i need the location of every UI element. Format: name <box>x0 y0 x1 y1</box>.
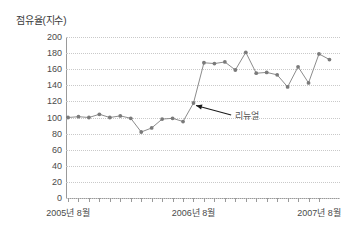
annotation-arrow-icon <box>66 37 340 198</box>
annotation-layer: 리뉴얼 <box>66 37 340 198</box>
y-axis-tick-label: 20 <box>16 177 62 187</box>
y-axis-tick-label: 100 <box>16 113 62 123</box>
x-axis-tick <box>120 198 121 202</box>
x-axis-tick-label: 2005년 8월 <box>46 206 90 219</box>
x-axis-tick <box>319 198 320 202</box>
x-axis-tick <box>173 198 174 202</box>
x-axis-tick <box>152 198 153 202</box>
x-axis-tick <box>277 198 278 202</box>
x-axis-tick <box>162 198 163 202</box>
x-axis-tick <box>78 198 79 202</box>
x-axis-tick <box>246 198 247 202</box>
x-axis-tick <box>288 198 289 202</box>
x-axis-tick <box>235 198 236 202</box>
y-axis-tick-label: 120 <box>16 96 62 106</box>
annotation-label: 리뉴얼 <box>235 109 258 122</box>
x-axis-tick <box>131 198 132 202</box>
y-axis-tick-label: 160 <box>16 64 62 74</box>
x-axis-tick <box>193 198 194 202</box>
x-axis-tick-label: 2006년 8월 <box>172 206 216 219</box>
x-axis-tick <box>204 198 205 202</box>
x-axis-tick <box>68 198 69 202</box>
x-axis-tick <box>214 198 215 202</box>
x-axis-tick <box>110 198 111 202</box>
x-axis-tick <box>225 198 226 202</box>
x-axis-tick <box>256 198 257 202</box>
chart-container: 점유율(지수) 200180160140120100806040200 2005… <box>0 0 354 234</box>
x-axis-tick <box>89 198 90 202</box>
y-axis-tick-label: 40 <box>16 161 62 171</box>
chart-title: 점유율(지수) <box>16 12 66 27</box>
y-axis-tick-label: 140 <box>16 80 62 90</box>
y-axis-tick-label: 60 <box>16 145 62 155</box>
y-axis-tick-label: 80 <box>16 129 62 139</box>
y-axis-tick-label: 180 <box>16 48 62 58</box>
x-axis-tick <box>141 198 142 202</box>
y-axis-tick-label: 0 <box>16 193 62 203</box>
y-axis-tick-labels: 200180160140120100806040200 <box>14 37 62 198</box>
y-axis-tick-label: 200 <box>16 32 62 42</box>
x-axis-tick <box>99 198 100 202</box>
x-axis-tick <box>267 198 268 202</box>
x-axis-tick-label: 2007년 8월 <box>297 206 341 219</box>
x-axis-tick <box>183 198 184 202</box>
x-axis-tick <box>309 198 310 202</box>
x-axis-tick <box>298 198 299 202</box>
